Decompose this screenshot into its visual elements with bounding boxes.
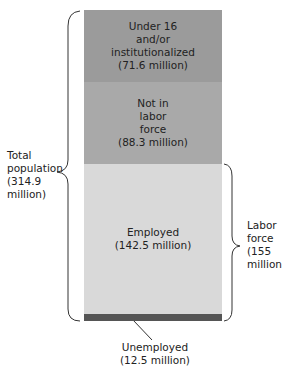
segment-label-line: institutionalized [111, 46, 195, 59]
segment-employed: Employed (142.5 million) [84, 164, 222, 314]
label-line: million) [7, 188, 63, 201]
segment-label-line: Under 16 [129, 20, 177, 33]
segment-value: (142.5 million) [115, 239, 192, 252]
label-line: Unemployed [120, 341, 190, 354]
segment-label-line: Not in [137, 97, 168, 110]
label-line: Labor [247, 219, 282, 232]
label-line: population [7, 162, 63, 175]
label-line: (12.5 million) [120, 354, 190, 367]
total-population-label: Total population (314.9 million) [7, 149, 63, 201]
segment-label-line: Employed [127, 226, 179, 239]
unemployed-leader-line [133, 320, 152, 340]
label-line: Total [7, 149, 63, 162]
label-line: (314.9 [7, 175, 63, 188]
label-line: (155 [247, 245, 282, 258]
segment-label-line: force [140, 123, 166, 136]
segment-label-line: and/or [136, 33, 170, 46]
labor-force-brace [224, 164, 240, 321]
segment-value: (88.3 million) [118, 136, 188, 149]
segment-not-in-labor-force: Not in labor force (88.3 million) [84, 82, 222, 164]
segment-unemployed [84, 314, 222, 321]
label-line: million) [247, 258, 282, 271]
labor-force-label: Labor force (155 million) [247, 219, 282, 271]
segment-under16-institutionalized: Under 16 and/or institutionalized (71.6 … [84, 10, 222, 82]
unemployed-label: Unemployed (12.5 million) [120, 341, 190, 367]
segment-label-line: labor [140, 110, 167, 123]
segment-value: (71.6 million) [118, 59, 188, 72]
label-line: force [247, 232, 282, 245]
